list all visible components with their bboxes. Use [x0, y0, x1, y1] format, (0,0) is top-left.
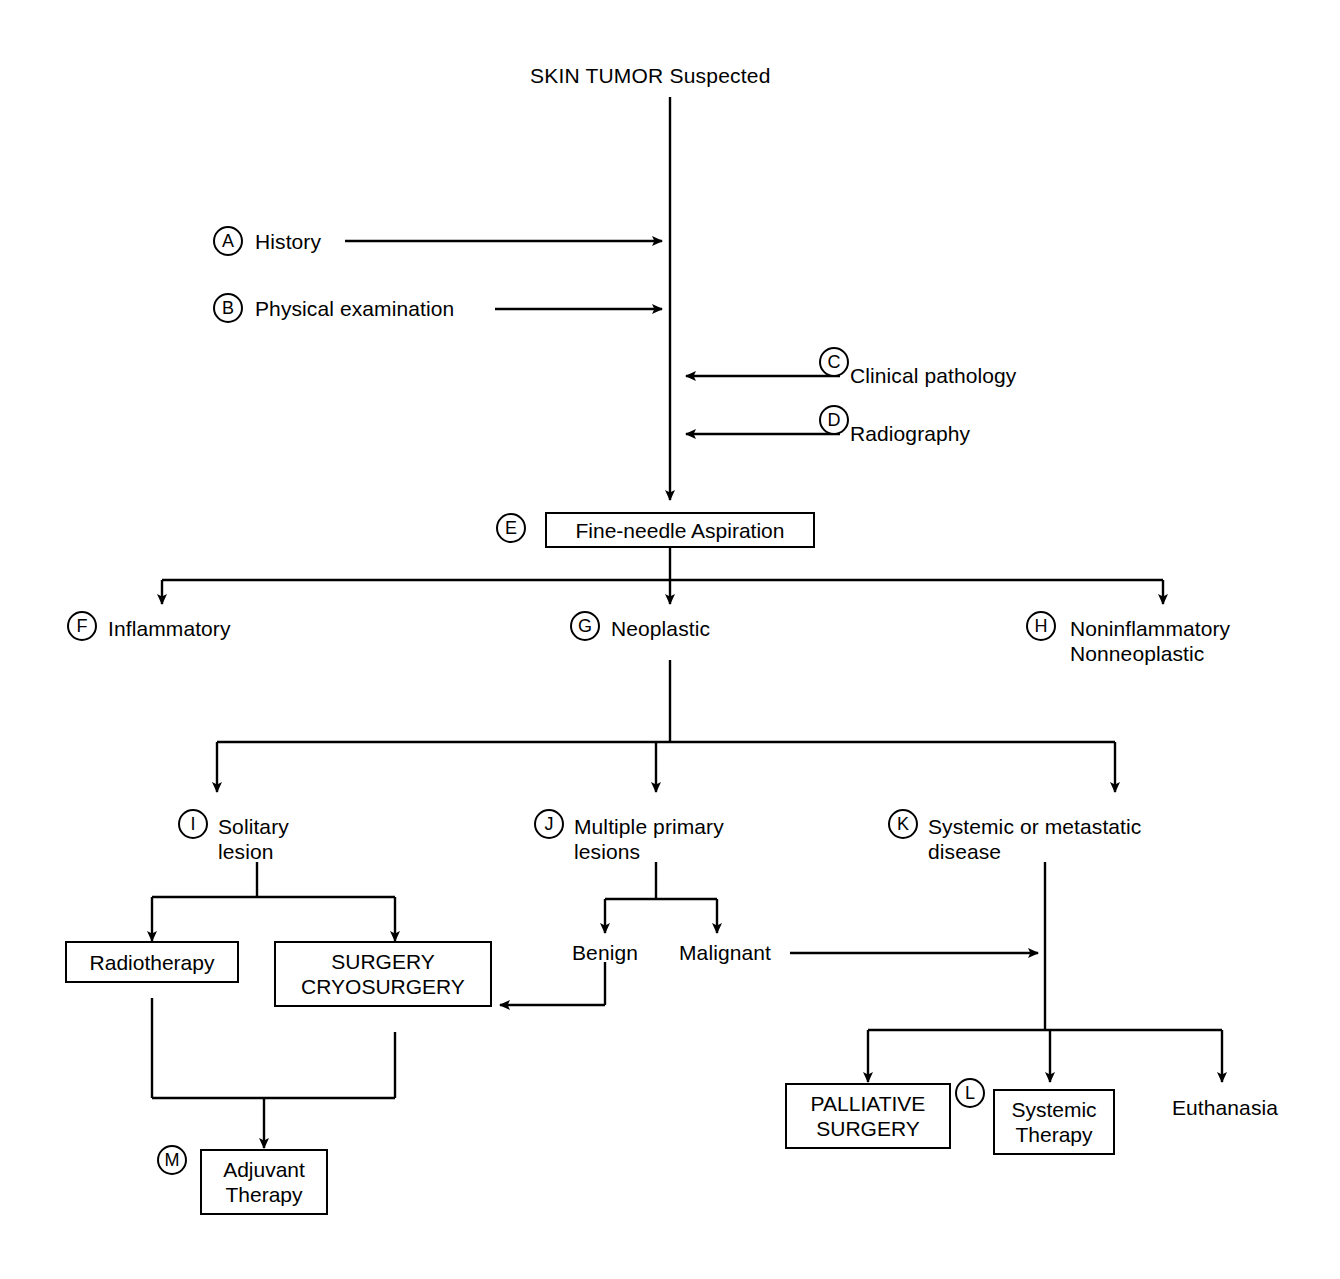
node-solitary-lesion: Solitary lesion	[218, 814, 289, 864]
node-multiple-primary-lesions: Multiple primary lesions	[574, 814, 724, 864]
node-euthanasia: Euthanasia	[1150, 1095, 1300, 1120]
marker-m-icon: M	[157, 1145, 187, 1175]
node-noninflammatory-nonneoplastic: Noninflammatory Nonneoplastic	[1070, 616, 1230, 666]
diagram-title: SKIN TUMOR Suspected	[530, 64, 771, 88]
skin-tumor-algorithm-diagram: SKIN TUMOR Suspected A History B Physica…	[0, 0, 1340, 1279]
node-physical-examination: Physical examination	[255, 296, 454, 321]
node-palliative-surgery: PALLIATIVE SURGERY	[785, 1083, 951, 1149]
node-history: History	[255, 229, 321, 254]
node-radiography: Radiography	[850, 421, 970, 446]
node-benign: Benign	[545, 940, 665, 965]
node-inflammatory: Inflammatory	[108, 616, 231, 641]
marker-b-icon: B	[213, 293, 243, 323]
node-neoplastic: Neoplastic	[611, 616, 710, 641]
marker-i-icon: I	[178, 809, 208, 839]
marker-j-icon: J	[534, 809, 564, 839]
node-systemic-therapy: Systemic Therapy	[993, 1089, 1115, 1155]
marker-a-icon: A	[213, 226, 243, 256]
node-systemic-or-metastatic-disease: Systemic or metastatic disease	[928, 814, 1141, 864]
node-surgery-cryosurgery: SURGERY CRYOSURGERY	[274, 941, 492, 1007]
marker-d-icon: D	[819, 405, 849, 435]
marker-h-icon: H	[1026, 611, 1056, 641]
marker-e-icon: E	[496, 513, 526, 543]
marker-f-icon: F	[67, 611, 97, 641]
node-radiotherapy: Radiotherapy	[65, 941, 239, 983]
marker-k-icon: K	[888, 809, 918, 839]
node-adjuvant-therapy: Adjuvant Therapy	[200, 1149, 328, 1215]
node-clinical-pathology: Clinical pathology	[850, 363, 1016, 388]
marker-c-icon: C	[819, 347, 849, 377]
marker-l-icon: L	[955, 1078, 985, 1108]
marker-g-icon: G	[570, 611, 600, 641]
node-fine-needle-aspiration: Fine-needle Aspiration	[545, 512, 815, 548]
node-malignant: Malignant	[660, 940, 790, 965]
